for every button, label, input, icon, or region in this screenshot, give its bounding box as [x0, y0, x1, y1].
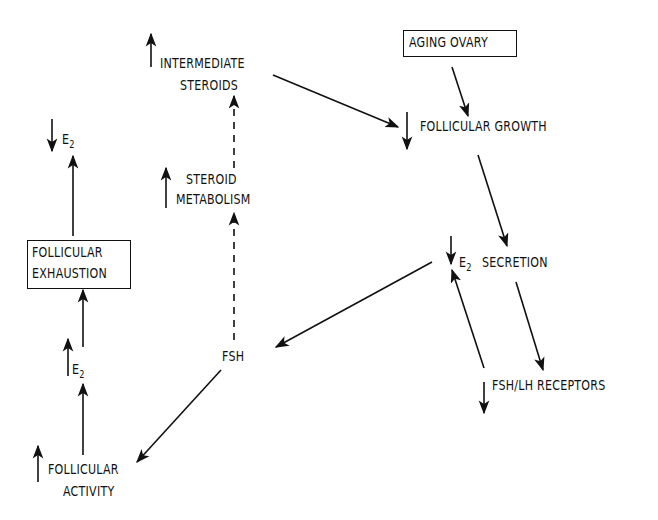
secretion-text: SECRETION: [482, 254, 548, 270]
edge-follicular-growth-to-e2-secretion: [478, 155, 507, 246]
follicular-growth-label: FOLLICULAR GROWTH: [420, 120, 547, 134]
follicular-exhaustion-line1: FOLLICULAR: [32, 246, 103, 260]
e2-symbol: E: [72, 361, 79, 377]
follicular-exhaustion-line2: EXHAUSTION: [32, 267, 107, 281]
edge-intermediate-steroids-to-follicular-growth: [273, 75, 398, 127]
e2-symbol: E: [62, 131, 69, 147]
edge-receptors-to-e2-secretion: [452, 270, 484, 368]
e2-secretion-label: E2 SECRETION: [459, 256, 548, 273]
e2-symbol: E: [459, 254, 466, 270]
aging-ovary-label: AGING OVARY: [409, 36, 488, 50]
e2-subscript: 2: [69, 139, 74, 150]
fsh-lh-receptors-label: FSH/LH RECEPTORS: [492, 379, 605, 393]
edge-aging-ovary-to-follicular-growth: [452, 67, 468, 116]
steroid-metabolism-line2: METABOLISM: [176, 193, 251, 207]
follicular-activity-line2: ACTIVITY: [63, 485, 114, 499]
aging-ovary-feedback-diagram: AGING OVARY FOLLICULAR GROWTH INTERMEDIA…: [0, 0, 658, 520]
intermediate-steroids-line1: INTERMEDIATE: [160, 57, 245, 71]
e2-subscript: 2: [79, 369, 84, 380]
intermediate-steroids-line2: STEROIDS: [180, 79, 238, 93]
steroid-metabolism-line1: STEROID: [186, 173, 237, 187]
e2-mid-left-label: E2: [72, 363, 85, 380]
fsh-label: FSH: [222, 350, 244, 364]
edge-e2-secretion-to-receptors: [516, 282, 543, 370]
edge-fsh-to-follicular-activity: [137, 370, 221, 462]
edge-e2-secretion-to-fsh: [276, 262, 432, 347]
follicular-activity-line1: FOLLICULAR: [48, 463, 119, 477]
e2-subscript: 2: [466, 262, 471, 273]
e2-top-left-label: E2: [62, 133, 75, 150]
